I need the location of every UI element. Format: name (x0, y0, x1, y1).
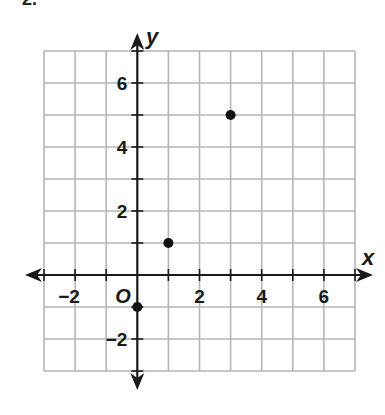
x-axis-label: x (361, 245, 375, 270)
data-point (226, 110, 236, 120)
y-tick-label: −2 (106, 329, 128, 350)
origin-label: O (115, 285, 131, 307)
x-tick-label: 2 (194, 286, 205, 307)
y-tick-label: 4 (117, 137, 128, 158)
x-tick-label: 4 (256, 286, 267, 307)
grid-lines (44, 51, 355, 371)
data-point (132, 302, 142, 312)
x-tick-label: −2 (58, 286, 80, 307)
y-tick-label: 2 (117, 201, 128, 222)
data-point (163, 238, 173, 248)
y-tick-label: 6 (117, 73, 128, 94)
x-tick-label: 6 (319, 286, 330, 307)
y-axis-label: y (145, 24, 160, 49)
coordinate-plane: −2246−2246Oxy (0, 0, 385, 415)
